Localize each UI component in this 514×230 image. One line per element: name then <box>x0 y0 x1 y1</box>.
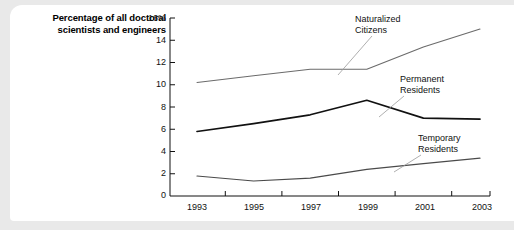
x-tick-label-1999: 1999 <box>348 202 388 212</box>
series-label-naturalized-citizens-line1: Naturalized <box>355 14 401 24</box>
leader-line-temporary-residents <box>394 155 421 172</box>
y-tick-label-2: 2 <box>140 168 166 178</box>
series-label-naturalized-citizens: Naturalized Citizens <box>355 14 401 36</box>
x-tick-label-1993: 1993 <box>177 202 217 212</box>
y-tick-label-8: 8 <box>140 102 166 112</box>
leader-line-permanent-residents <box>379 96 404 117</box>
series-line-2 <box>197 158 480 181</box>
y-tick-label-0: 0 <box>140 190 166 200</box>
x-tick-label-1997: 1997 <box>291 202 331 212</box>
series-label-naturalized-citizens-line2: Citizens <box>355 25 387 35</box>
y-tick-label-6: 6 <box>140 124 166 134</box>
x-tick-label-2003: 2003 <box>462 202 502 212</box>
screenshot-root: Percentage of all doctoral scientists an… <box>0 0 514 230</box>
x-tick-label-1995: 1995 <box>234 202 274 212</box>
chart-canvas <box>0 0 514 230</box>
series-line-1 <box>197 100 480 131</box>
y-tick-label-14: 14 <box>140 35 166 45</box>
series-label-permanent-residents-line1: Permanent <box>400 74 444 84</box>
y-tick-label-4: 4 <box>140 146 166 156</box>
line-chart: 16% 14 12 10 8 6 4 2 0 1993 1995 1997 19… <box>0 0 514 230</box>
series-label-temporary-residents-line2: Residents <box>418 144 458 154</box>
series-label-permanent-residents-line2: Residents <box>400 85 440 95</box>
series-label-temporary-residents-line1: Temporary <box>418 133 461 143</box>
y-tick-label-16: 16% <box>140 13 166 23</box>
series-label-temporary-residents: Temporary Residents <box>418 133 461 155</box>
x-tick-label-2001: 2001 <box>405 202 445 212</box>
y-tick-label-12: 12 <box>140 57 166 67</box>
series-label-permanent-residents: Permanent Residents <box>400 74 444 96</box>
y-tick-label-10: 10 <box>140 79 166 89</box>
